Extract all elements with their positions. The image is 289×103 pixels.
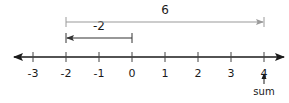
jump-label: 6 (161, 3, 169, 17)
tick-label: -3 (28, 67, 39, 80)
sum-marker: sum (253, 73, 274, 97)
tick-label: 0 (129, 67, 136, 80)
tick-label: -2 (61, 67, 72, 80)
number-line-diagram: -3-2-101234 -26 sum (0, 0, 289, 103)
tick-label: 1 (162, 67, 169, 80)
tick-label: 2 (195, 67, 202, 80)
sum-label: sum (253, 86, 274, 97)
jump-label: -2 (93, 19, 105, 33)
tick-label: -1 (94, 67, 105, 80)
jump-arrows: -26 (66, 3, 264, 43)
number-line-ticks: -3-2-101234 (28, 52, 268, 80)
tick-label: 3 (228, 67, 235, 80)
